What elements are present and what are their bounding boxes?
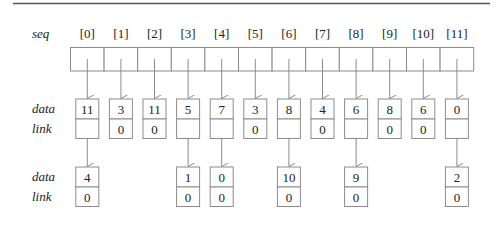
seq-index-label: [5] — [248, 26, 263, 41]
list-node: 20 — [445, 167, 468, 207]
node-link-field — [277, 119, 300, 139]
node-link-value: 0 — [286, 190, 293, 205]
node-link-value: 0 — [353, 190, 360, 205]
list-node: 5 — [177, 99, 200, 139]
node-link-field — [76, 119, 99, 139]
data-label-row1: data — [32, 101, 56, 116]
list-node: 30 — [244, 99, 267, 139]
seq-index-label: [0] — [80, 26, 95, 41]
seq-index-label: [1] — [113, 26, 128, 41]
node-data-value: 4 — [84, 170, 91, 185]
seq-index-label: [8] — [349, 26, 364, 41]
list-node: 0 — [445, 99, 468, 139]
list-node: 90 — [345, 167, 368, 207]
list-node: 8 — [277, 99, 300, 139]
node-link-value: 0 — [218, 190, 225, 205]
node-link-field — [177, 119, 200, 139]
node-data-value: 7 — [218, 102, 225, 117]
list-node: 40 — [311, 99, 334, 139]
seq-index-label: [4] — [214, 26, 229, 41]
list-node: 6 — [345, 99, 368, 139]
node-data-value: 0 — [454, 102, 461, 117]
node-link-value: 0 — [185, 190, 192, 205]
node-data-value: 3 — [118, 102, 125, 117]
node-data-value: 10 — [282, 170, 295, 185]
seq-index-label: [11] — [446, 26, 467, 41]
seq-index-label: [2] — [147, 26, 162, 41]
list-node: 100 — [277, 167, 300, 207]
link-label-row2: link — [32, 189, 52, 204]
second-node-row: 4010001009020 — [76, 167, 469, 207]
seq-index-labels: [0][1][2][3][4][5][6][7][8][9][10][11] — [80, 26, 468, 41]
node-link-field — [445, 119, 468, 139]
node-link-value: 0 — [252, 122, 259, 137]
node-link-value: 0 — [151, 122, 158, 137]
node-data-value: 11 — [148, 102, 161, 117]
node-link-value: 0 — [420, 122, 427, 137]
node-data-value: 4 — [319, 102, 326, 117]
node-data-value: 8 — [286, 102, 293, 117]
node-link-value: 0 — [386, 122, 393, 137]
node-data-value: 3 — [252, 102, 259, 117]
seq-array — [71, 48, 474, 72]
data-label-row2: data — [32, 169, 56, 184]
list-node: 10 — [177, 167, 200, 207]
list-node: 11 — [76, 99, 99, 139]
list-node: 110 — [143, 99, 166, 139]
node-data-value: 8 — [386, 102, 393, 117]
seq-index-label: [7] — [315, 26, 330, 41]
node-link-value: 0 — [454, 190, 461, 205]
node-link-field — [345, 119, 368, 139]
node-data-value: 1 — [185, 170, 192, 185]
seq-index-label: [9] — [382, 26, 397, 41]
node-link-value: 0 — [319, 122, 326, 137]
list-node: 30 — [109, 99, 132, 139]
linked-list-diagram: seq data link data link [0][1][2][3][4][… — [0, 0, 502, 226]
link-label-row1: link — [32, 121, 52, 136]
list-node: 00 — [210, 167, 233, 207]
seq-index-label: [6] — [281, 26, 296, 41]
list-node: 80 — [378, 99, 401, 139]
list-node: 60 — [412, 99, 435, 139]
seq-label: seq — [32, 26, 50, 41]
node-link-value: 0 — [118, 122, 125, 137]
node-data-value: 11 — [81, 102, 94, 117]
first-node-row: 11301105730840680600 — [76, 99, 469, 139]
node-data-value: 6 — [420, 102, 427, 117]
node-data-value: 6 — [353, 102, 360, 117]
list-node: 7 — [210, 99, 233, 139]
node-data-value: 9 — [353, 170, 360, 185]
seq-index-label: [10] — [412, 26, 434, 41]
node-data-value: 0 — [218, 170, 225, 185]
node-data-value: 2 — [454, 170, 461, 185]
node-data-value: 5 — [185, 102, 192, 117]
node-link-field — [210, 119, 233, 139]
list-node: 40 — [76, 167, 99, 207]
node-link-value: 0 — [84, 190, 91, 205]
seq-index-label: [3] — [181, 26, 196, 41]
